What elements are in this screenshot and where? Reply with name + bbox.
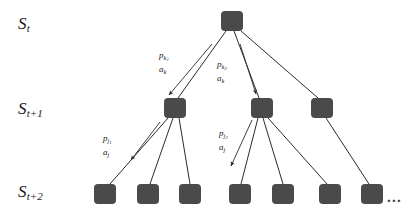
- action-label: ak: [217, 73, 227, 85]
- tree-edge: [241, 31, 318, 98]
- probability-symbol: p: [103, 133, 108, 143]
- tree-edge: [179, 118, 190, 184]
- probability-subscript-index: 1: [109, 140, 112, 145]
- transition-probability: pk2: [217, 59, 227, 73]
- probability-subscript-index: 1: [166, 57, 169, 62]
- state-label-base: S: [18, 99, 27, 118]
- probability-subscript-index: 2: [224, 66, 227, 71]
- state-label-base: S: [18, 14, 27, 33]
- action-subscript: j: [108, 151, 110, 158]
- state-node-level2: [272, 184, 294, 204]
- state-label-base: S: [18, 182, 27, 201]
- state-label-s-t2: St+2: [18, 182, 43, 202]
- transition-arrow: [240, 44, 256, 94]
- tree-graphics: [0, 0, 406, 220]
- probability-symbol: p: [219, 128, 224, 138]
- state-node-level1: [164, 98, 186, 118]
- probability-symbol: p: [159, 50, 164, 60]
- probability-subscript: j2: [224, 132, 228, 139]
- transition-probability: pj1: [103, 133, 112, 147]
- tail-ellipsis: ...: [387, 190, 402, 205]
- transition-probability: pk1: [159, 50, 169, 64]
- probability-subscript: k2: [222, 63, 227, 70]
- probability-subscript-index: 2: [225, 135, 228, 140]
- state-node-level1: [311, 98, 333, 118]
- action-subscript: k: [222, 77, 225, 84]
- transition-arrow: [131, 122, 160, 160]
- state-node-root: [221, 11, 243, 31]
- state-node-level2: [94, 184, 116, 204]
- action-subscript: k: [164, 68, 167, 75]
- state-label-s-t1: St+1: [18, 99, 43, 119]
- edge-label-branch-j1: pj1aj: [103, 133, 112, 159]
- state-node-level2: [229, 184, 251, 204]
- tree-edge: [268, 118, 327, 184]
- action-label: ak: [159, 64, 169, 76]
- edge-label-branch-k2: pk2ak: [217, 59, 227, 85]
- probability-subscript: j1: [108, 137, 112, 144]
- nodes-group: [94, 11, 383, 204]
- transition-probability: pj2: [219, 128, 228, 142]
- edge-label-branch-j2: pj2aj: [219, 128, 228, 154]
- tree-edge: [263, 118, 283, 184]
- state-node-level1: [251, 98, 273, 118]
- state-label-subscript: t: [27, 22, 30, 34]
- state-label-subscript: t+2: [27, 190, 43, 202]
- state-node-level2: [137, 184, 159, 204]
- edge-label-branch-k1: pk1ak: [159, 50, 169, 76]
- action-label: aj: [103, 147, 112, 159]
- transition-arrow: [231, 120, 252, 166]
- tree-edge: [326, 118, 369, 184]
- state-node-level2: [361, 184, 383, 204]
- action-label: aj: [219, 142, 228, 154]
- state-node-level2: [179, 184, 201, 204]
- state-label-s-t: St: [18, 14, 30, 34]
- tree-edge: [241, 118, 258, 184]
- state-label-subscript: t+1: [27, 107, 43, 119]
- state-node-level2: [319, 184, 341, 204]
- probability-symbol: p: [217, 59, 222, 69]
- tree-edge: [150, 118, 173, 184]
- action-subscript: j: [224, 146, 226, 153]
- transition-arrow: [169, 44, 212, 95]
- tree-edge: [110, 118, 168, 184]
- probability-subscript: k1: [164, 54, 169, 61]
- state-transition-tree-figure: StSt+1St+2 pk1akpk2akpj1ajpj2aj ...: [0, 0, 406, 220]
